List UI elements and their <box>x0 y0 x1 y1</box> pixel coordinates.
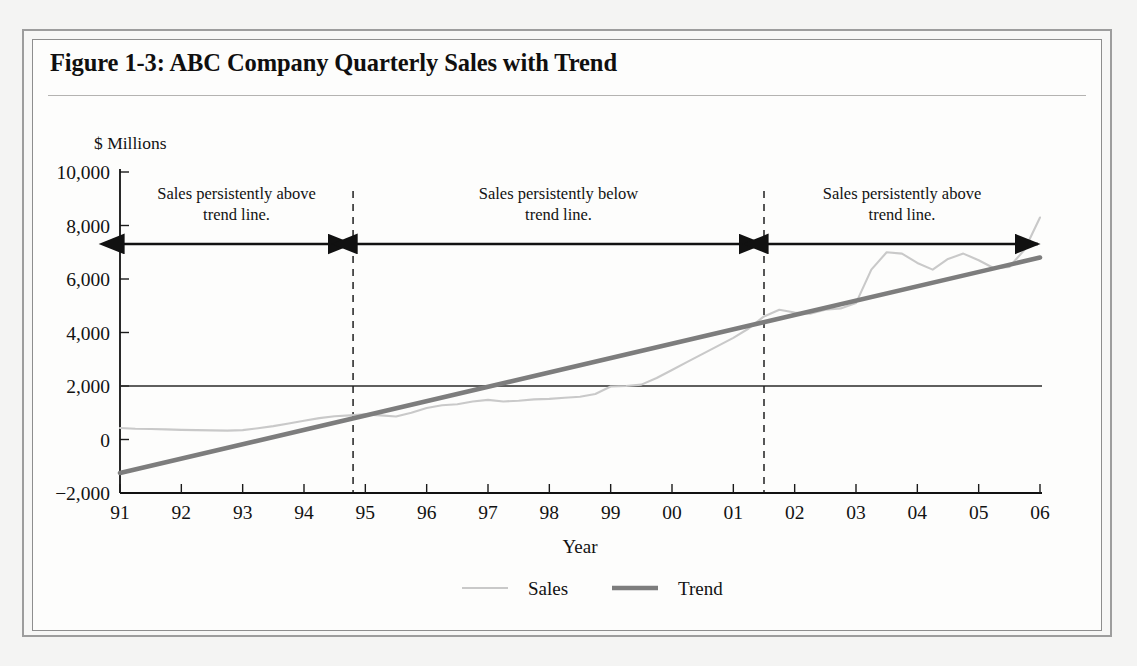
y-tick-label: 8,000 <box>66 216 110 237</box>
annotation-text-line: Sales persistently below <box>479 184 639 203</box>
y-tick-label: 0 <box>100 430 110 451</box>
unit-label-text: $ Millions <box>94 133 167 153</box>
x-tick-label: 97 <box>478 502 498 523</box>
period-annotations: Sales persistently abovetrend line.Sales… <box>122 184 1038 244</box>
y-tick-label: 2,000 <box>66 376 110 397</box>
x-tick-label: 93 <box>233 502 253 523</box>
legend-label-sales: Sales <box>528 578 568 599</box>
annotation-text-line: Sales persistently above <box>823 184 982 203</box>
scanned-page-background: Figure 1-3: ABC Company Quarterly Sales … <box>0 0 1137 666</box>
x-tick-label: 06 <box>1030 502 1050 523</box>
x-tick-label: 02 <box>785 502 805 523</box>
chart-legend: SalesTrend <box>462 578 723 599</box>
y-tick-label: 4,000 <box>66 323 110 344</box>
series-line-sales <box>120 217 1040 430</box>
y-axis-tick-labels: 10,0008,0006,0004,0002,0000−2,000 <box>55 162 110 504</box>
x-tick-label: 92 <box>172 502 192 523</box>
x-tick-label: 01 <box>724 502 744 523</box>
y-tick-label: −2,000 <box>55 483 110 504</box>
data-series <box>120 217 1040 472</box>
y-tick-label: 6,000 <box>66 269 110 290</box>
x-tick-label: 94 <box>294 502 314 523</box>
x-tick-label: 05 <box>969 502 989 523</box>
x-tick-label: 03 <box>846 502 866 523</box>
annotation-text-line: trend line. <box>869 205 936 224</box>
legend-label-trend: Trend <box>678 578 723 599</box>
x-tick-label: 98 <box>540 502 560 523</box>
quarterly-sales-line-chart: $ Millions 10,0008,0006,0004,0002,0000−2… <box>32 39 1102 631</box>
annotation-text-line: Sales persistently above <box>157 184 316 203</box>
x-tick-label: 99 <box>601 502 621 523</box>
x-tick-label: 91 <box>110 502 130 523</box>
y-tick-label: 10,000 <box>56 162 110 183</box>
x-tick-label: 96 <box>417 502 437 523</box>
y-axis-unit-label: $ Millions <box>94 133 167 153</box>
x-tick-label: 00 <box>662 502 682 523</box>
annotation-text-line: trend line. <box>203 205 270 224</box>
x-axis-tick-labels: 91929394959697989900010203040506 <box>110 502 1050 523</box>
series-line-trend <box>120 258 1040 473</box>
annotation-text-line: trend line. <box>525 205 592 224</box>
x-axis-title: Year <box>562 536 598 557</box>
x-axis-title-text: Year <box>562 536 598 557</box>
x-tick-label: 04 <box>908 502 928 523</box>
period-divider-lines <box>353 191 764 492</box>
chart-canvas: $ Millions 10,0008,0006,0004,0002,0000−2… <box>32 39 1102 631</box>
x-tick-label: 95 <box>356 502 376 523</box>
